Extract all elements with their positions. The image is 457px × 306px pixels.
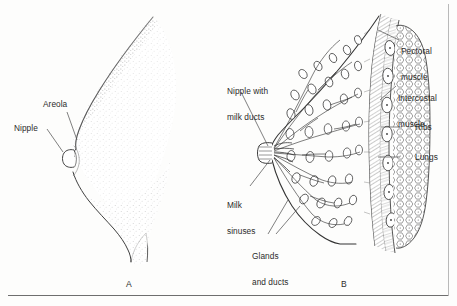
leader-glands-ducts-a [268, 200, 288, 234]
label-nipple-with-milk-ducts-line2: milk ducts [227, 113, 268, 122]
leader-milk-sinuses [250, 160, 270, 186]
label-milk-sinuses-line1: Milk [227, 201, 255, 210]
anatomy-illustration [0, 0, 457, 306]
label-ribs: Ribs [415, 123, 432, 132]
label-intercostal-muscle: Intercostal muscle [398, 77, 437, 146]
bottom-divider [8, 295, 449, 296]
leader-nipple [47, 129, 63, 152]
panel-caption-b: B [341, 279, 347, 289]
label-nipple: Nipple [14, 124, 38, 133]
label-nipple-with-milk-ducts: Nipple with milk ducts [227, 70, 268, 139]
panel-caption-a: A [126, 279, 132, 289]
label-glands-and-ducts-line1: Glands [252, 252, 288, 261]
label-intercostal-muscle-line1: Intercostal [398, 94, 437, 103]
label-pectoral-muscle-line1: Pectoral [401, 47, 432, 56]
leader-glands-ducts-b [276, 206, 300, 234]
figure-canvas: Areola Nipple Nipple with milk ducts Mil… [0, 0, 457, 306]
panel-a-leaders [47, 112, 77, 152]
label-nipple-with-milk-ducts-line1: Nipple with [227, 87, 268, 96]
label-lungs: Lungs [415, 153, 438, 162]
label-areola: Areola [43, 100, 67, 109]
lobule-cluster [285, 35, 362, 229]
label-glands-and-ducts-line2: and ducts [252, 278, 288, 287]
right-divider [448, 4, 449, 296]
leader-areola [67, 112, 77, 140]
panel-a-illustration [63, 17, 177, 264]
label-glands-and-ducts: Glands and ducts [252, 235, 288, 304]
